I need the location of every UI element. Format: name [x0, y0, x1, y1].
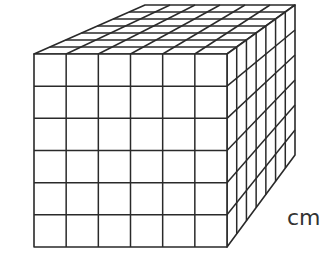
unit-cube-prism	[0, 0, 334, 255]
unit-label: cm	[287, 205, 321, 230]
front-face	[34, 54, 227, 247]
